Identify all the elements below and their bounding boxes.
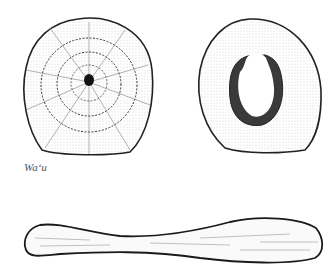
grater-side-view: [25, 218, 322, 262]
illustration-drawing: [0, 0, 333, 271]
grater-back-view: [199, 19, 321, 153]
grater-face-view: [24, 18, 153, 155]
illustration-page: Wa‘u: [0, 0, 333, 271]
figure-caption: Wa‘u: [24, 161, 47, 173]
